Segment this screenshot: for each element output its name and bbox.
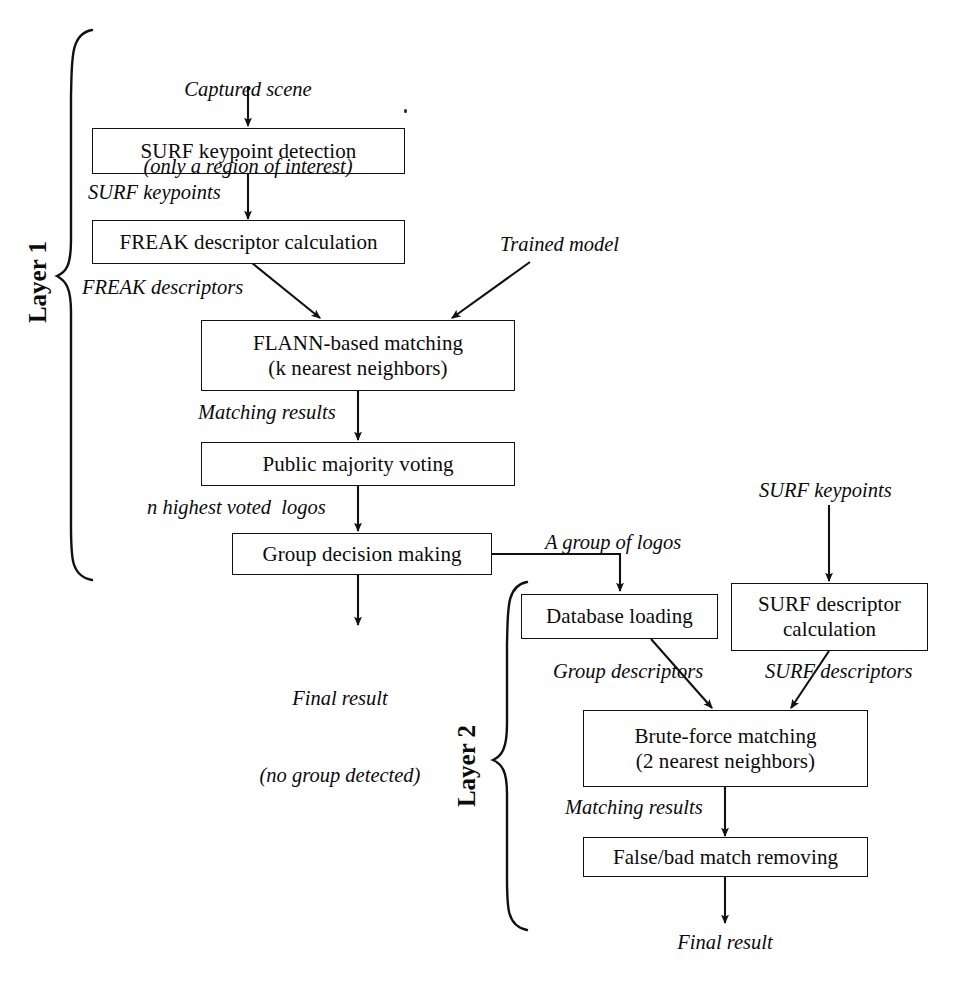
label-matching-results-l1: Matching results bbox=[198, 400, 336, 426]
label-trained-model: Trained model bbox=[500, 232, 619, 258]
label-surf-descriptors: SURF descriptors bbox=[765, 659, 912, 685]
label-freak-descriptors: FREAK descriptors bbox=[82, 275, 243, 301]
node-label-line1: Brute-force matching bbox=[628, 724, 822, 749]
node-label: False/bad match removing bbox=[607, 845, 844, 870]
node-database-loading[interactable]: Database loading bbox=[521, 594, 718, 639]
layer-label-layer-1: Layer 1 bbox=[24, 232, 52, 332]
node-surf-descriptor-calculation[interactable]: SURF descriptor calculation bbox=[731, 583, 928, 651]
node-brute-force-matching[interactable]: Brute-force matching (2 nearest neighbor… bbox=[583, 710, 868, 787]
label-final-result-l1-line1: Final result bbox=[260, 686, 421, 712]
layer1-brace bbox=[57, 30, 92, 580]
flowchart-canvas: SURF keypoint detection FREAK descriptor… bbox=[0, 0, 961, 994]
edge-a-group-of-logos bbox=[492, 554, 620, 591]
label-final-result-l2: Final result bbox=[677, 930, 772, 956]
label-final-result-l1: Final result (no group detected) bbox=[260, 635, 421, 840]
label-a-group-of-logos: A group of logos bbox=[545, 530, 681, 556]
node-group-decision-making[interactable]: Group decision making bbox=[232, 533, 492, 575]
node-label-line2: calculation bbox=[777, 617, 882, 642]
layer-label-layer-2: Layer 2 bbox=[453, 716, 481, 816]
node-label-line2: (2 nearest neighbors) bbox=[630, 749, 821, 774]
label-n-highest-voted-logos: n highest voted logos bbox=[147, 495, 326, 521]
label-captured-scene-line1: Captured scene bbox=[143, 77, 352, 103]
label-captured-scene-line2: (only a region of interest) bbox=[143, 154, 352, 180]
label-final-result-l1-line2: (no group detected) bbox=[260, 763, 421, 789]
node-label: Public majority voting bbox=[256, 452, 459, 477]
edge-freak-descriptors bbox=[252, 263, 320, 318]
node-label-line2: (k nearest neighbors) bbox=[262, 356, 453, 381]
label-matching-results-l2: Matching results bbox=[565, 795, 703, 821]
label-surf-keypoints-right: SURF keypoints bbox=[759, 478, 892, 504]
node-label-line1: SURF descriptor bbox=[752, 592, 907, 617]
node-label: FREAK descriptor calculation bbox=[113, 230, 383, 255]
node-label: Group decision making bbox=[256, 542, 467, 567]
edge-trained-model bbox=[452, 262, 530, 318]
node-label-line1: FLANN-based matching bbox=[247, 331, 469, 356]
label-group-descriptors: Group descriptors bbox=[553, 659, 703, 685]
label-surf-keypoints-top: SURF keypoints bbox=[88, 180, 221, 206]
node-public-majority-voting[interactable]: Public majority voting bbox=[201, 442, 515, 486]
node-label: Database loading bbox=[540, 604, 699, 629]
scan-speck bbox=[404, 109, 407, 113]
node-flann-based-matching[interactable]: FLANN-based matching (k nearest neighbor… bbox=[201, 320, 515, 391]
node-false-bad-match-removing[interactable]: False/bad match removing bbox=[583, 837, 868, 877]
